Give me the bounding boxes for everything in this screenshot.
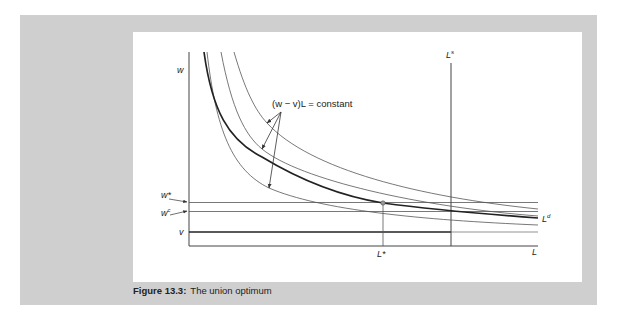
iso-rent-curve-low — [207, 52, 538, 225]
iso-rent-curve-high — [234, 52, 538, 209]
labor-supply-label: Ls — [446, 49, 454, 60]
iso-rent-curve-mid — [221, 52, 538, 216]
optimal-employment-label: L* — [377, 249, 386, 259]
caption-number: Figure 13.3: — [133, 285, 186, 296]
union-optimum-point — [381, 201, 385, 205]
optimal-wage-arrow — [169, 199, 187, 202]
reservation-wage-label: v — [179, 227, 184, 237]
optimal-wage-label: w* — [161, 190, 171, 200]
figure-caption: Figure 13.3:The union optimum — [133, 285, 272, 296]
x-axis-label: L — [532, 247, 537, 257]
competitive-wage-label: wc — [161, 207, 171, 218]
competitive-wage-arrow — [170, 211, 187, 215]
caption-title: The union optimum — [190, 285, 271, 296]
annotation-arrow-high — [267, 112, 281, 123]
union-optimum-diagram: w L Ls Ld L* w* wc v (w − v)L = constant — [0, 0, 618, 319]
labor-demand-label: Ld — [542, 213, 551, 224]
y-axis-label: w — [177, 65, 184, 75]
iso-rent-annotation: (w − v)L = constant — [272, 98, 353, 109]
labor-demand-curve — [204, 52, 538, 218]
